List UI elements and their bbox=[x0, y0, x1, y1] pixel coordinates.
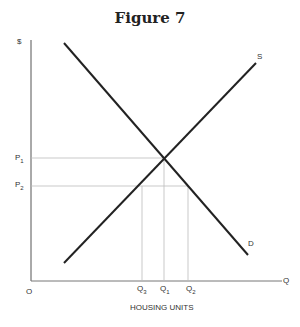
supply-demand-chart bbox=[0, 0, 300, 327]
x-axis-title: HOUSING UNITS bbox=[130, 303, 194, 312]
q2-label: Q2 bbox=[186, 284, 196, 295]
q3-label: Q3 bbox=[137, 284, 147, 295]
p2-label: P2 bbox=[15, 180, 24, 191]
q1-label: Q1 bbox=[160, 284, 170, 295]
demand-curve bbox=[64, 43, 248, 255]
y-axis-label: $ bbox=[17, 37, 21, 46]
x-axis-end-label: Q bbox=[283, 276, 289, 285]
demand-label: D bbox=[248, 239, 254, 248]
p1-label: P1 bbox=[15, 153, 24, 164]
origin-label: O bbox=[26, 287, 32, 296]
supply-curve bbox=[64, 63, 256, 263]
supply-label: S bbox=[257, 52, 262, 61]
